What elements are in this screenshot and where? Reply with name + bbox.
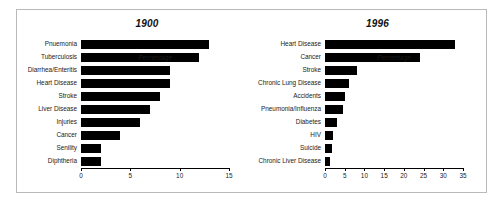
bar-row: Diarrhea/Enteritis	[81, 64, 229, 77]
bar	[325, 131, 333, 140]
bar-row: Pneumonia/Influenza	[325, 103, 463, 116]
chart-panel-1900: 1900 PnuemoniaTuberculosisDiarrhea/Enter…	[17, 10, 253, 192]
axis-tick-label: 0	[323, 172, 327, 179]
bar	[81, 40, 209, 49]
axis-tick	[443, 168, 444, 171]
axis-tick	[384, 168, 385, 171]
bar-row: Stroke	[325, 64, 463, 77]
category-label: Injuries	[56, 116, 77, 129]
x-axis-title-1996: Percentage	[325, 54, 463, 61]
plot-area-1996: Heart DiseaseCancerStrokeChronic Lung Di…	[325, 38, 463, 169]
bar	[325, 118, 337, 127]
bar-row: Heart Disease	[81, 77, 229, 90]
bar	[81, 79, 170, 88]
x-axis-1900: 051015	[81, 168, 229, 169]
category-label: HIV	[310, 129, 321, 142]
category-label: Cancer	[300, 51, 321, 64]
category-label: Senility	[56, 142, 77, 155]
category-label: Stroke	[303, 64, 321, 77]
bar	[81, 118, 140, 127]
bar	[81, 144, 101, 153]
bar-row: Cancer	[81, 129, 229, 142]
bar-row: Diabetes	[325, 116, 463, 129]
category-label: Diarrhea/Enteritis	[28, 64, 77, 77]
bar-row: Suicide	[325, 142, 463, 155]
category-label: Accidents	[293, 90, 321, 103]
axis-tick	[463, 168, 464, 171]
category-label: Chronic Lung Disease	[258, 77, 321, 90]
bar	[325, 105, 343, 114]
bar-row: Pnuemonia	[81, 38, 229, 51]
axis-tick-label: 15	[381, 172, 388, 179]
axis-tick	[180, 168, 181, 171]
bar	[325, 157, 330, 166]
axis-tick-label: 25	[420, 172, 427, 179]
plot-area-1900: PnuemoniaTuberculosisDiarrhea/EnteritisH…	[81, 38, 229, 169]
axis-tick	[364, 168, 365, 171]
axis-tick-label: 35	[459, 172, 466, 179]
chart-panel-1996: 1996 Heart DiseaseCancerStrokeChronic Lu…	[253, 10, 486, 192]
bar	[81, 157, 101, 166]
bar-row: Injuries	[81, 116, 229, 129]
axis-tick-label: 5	[129, 172, 133, 179]
bar	[81, 105, 150, 114]
axis-tick-label: 10	[361, 172, 368, 179]
bar	[81, 131, 120, 140]
bar-row: Stroke	[81, 90, 229, 103]
bar	[325, 144, 332, 153]
x-axis-title-1900: Percentage	[81, 54, 229, 61]
axis-tick-label: 20	[400, 172, 407, 179]
category-label: Liver Disease	[38, 103, 77, 116]
bar-row: Liver Disease	[81, 103, 229, 116]
category-label: Heart Disease	[281, 38, 322, 51]
axis-tick-label: 10	[176, 172, 183, 179]
category-label: Chronic Liver Disease	[258, 155, 321, 168]
bar	[325, 66, 357, 75]
axis-tick	[229, 168, 230, 171]
chart-title-1996: 1996	[253, 18, 486, 29]
axis-tick-label: 15	[225, 172, 232, 179]
bar-row: Accidents	[325, 90, 463, 103]
category-label: Tuberculosis	[41, 51, 77, 64]
bar-row: Heart Disease	[325, 38, 463, 51]
bar	[81, 66, 170, 75]
category-label: Pneumonia/Influenza	[261, 103, 321, 116]
category-label: Stroke	[59, 90, 77, 103]
axis-tick	[404, 168, 405, 171]
category-label: Heart Disease	[37, 77, 78, 90]
bar-row: Diphtheria	[81, 155, 229, 168]
category-label: Diphtheria	[48, 155, 77, 168]
figure-frame: 1900 PnuemoniaTuberculosisDiarrhea/Enter…	[16, 9, 487, 193]
category-label: Pnuemonia	[45, 38, 77, 51]
axis-tick-label: 5	[343, 172, 347, 179]
axis-tick	[424, 168, 425, 171]
chart-title-1900: 1900	[17, 18, 253, 29]
category-label: Cancer	[56, 129, 77, 142]
bar-row: HIV	[325, 129, 463, 142]
bar	[325, 40, 455, 49]
bar-row: Chronic Liver Disease	[325, 155, 463, 168]
category-label: Diabetes	[296, 116, 321, 129]
bar-row: Senility	[81, 142, 229, 155]
axis-tick	[325, 168, 326, 171]
x-axis-1996: 05101520253035	[325, 168, 463, 169]
axis-tick	[130, 168, 131, 171]
bar	[81, 92, 160, 101]
axis-tick-label: 0	[79, 172, 83, 179]
axis-tick	[81, 168, 82, 171]
axis-tick	[345, 168, 346, 171]
axis-tick-label: 30	[440, 172, 447, 179]
bar-row: Chronic Lung Disease	[325, 77, 463, 90]
category-label: Suicide	[300, 142, 321, 155]
bar	[325, 92, 345, 101]
bar	[325, 79, 349, 88]
